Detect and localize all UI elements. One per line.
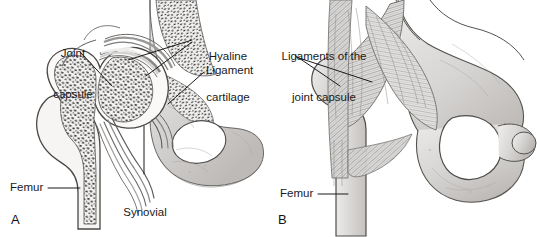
label-hyaline-cartilage-line1: Hyaline bbox=[194, 50, 262, 64]
panel-letter-b: B bbox=[278, 213, 287, 227]
label-synovial-cavity-line1: Synovial bbox=[118, 206, 172, 220]
label-synovial-cavity: Synovial cavity bbox=[118, 179, 172, 237]
label-femur-a: Femur bbox=[10, 181, 43, 195]
label-ligaments-of-the-joint-capsule: Ligaments of the joint capsule bbox=[277, 23, 371, 131]
obturator-foramen-b bbox=[440, 116, 502, 180]
label-hyaline-cartilage-line2: cartilage bbox=[194, 91, 262, 105]
panel-letter-a: A bbox=[11, 213, 20, 227]
label-joint-capsule: Joint capsule bbox=[38, 20, 108, 128]
label-joint-capsule-line2: capsule bbox=[38, 88, 108, 102]
label-ligaments-line1: Ligaments of the bbox=[277, 50, 371, 64]
label-ligaments-line2: joint capsule bbox=[277, 91, 371, 105]
anatomy-figure: Joint capsule Hyaline cartilage Ligament… bbox=[0, 0, 537, 237]
label-joint-capsule-line1: Joint bbox=[38, 47, 108, 61]
label-femur-b: Femur bbox=[280, 187, 313, 201]
label-ligament: Ligament bbox=[206, 64, 253, 78]
